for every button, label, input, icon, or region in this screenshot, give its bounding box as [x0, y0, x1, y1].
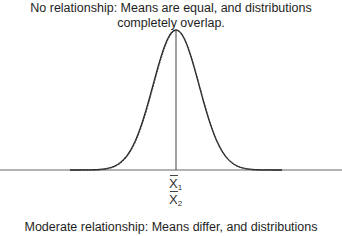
mean-label-x2: X2	[169, 193, 182, 210]
bottom-caption: Moderate relationship: Means differ, and…	[0, 220, 342, 235]
overbar	[170, 191, 178, 192]
bottom-caption-line-1: Moderate relationship: Means differ, and…	[0, 220, 342, 235]
overbar	[170, 175, 178, 176]
